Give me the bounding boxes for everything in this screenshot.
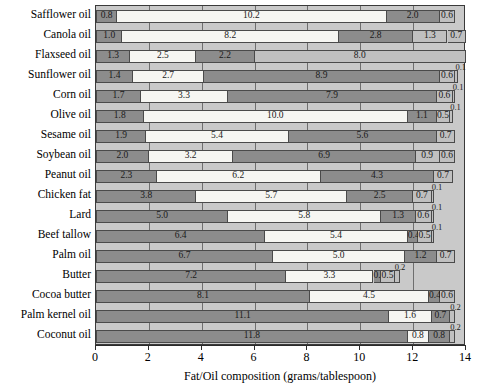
bar-segment: 8.2 [122, 30, 339, 43]
bar-segment: 3.3 [141, 90, 228, 103]
bar-segment: 2.5 [130, 50, 196, 63]
bar-segment: 0.5 [437, 110, 450, 123]
bar-segment: 1.3 [96, 50, 130, 63]
bar-segment: 2.0 [387, 10, 440, 23]
bar-segment: 0.9 [416, 150, 440, 163]
bar-segment-value: 2.8 [339, 31, 412, 41]
bar-segment-value: 4.3 [321, 171, 434, 181]
bar-segment-value: 6.2 [157, 171, 320, 181]
bar-segment-value: 5.8 [228, 211, 380, 221]
bar-segment-value: 2.5 [347, 191, 412, 201]
bar-segment: 0.7 [437, 130, 456, 143]
bar-segment-value: 2.5 [130, 51, 195, 61]
category-label: Lard [0, 209, 91, 221]
bar-segment: 3.8 [96, 190, 196, 203]
bar-segment: 1.6 [389, 310, 431, 323]
bar-segment: 11.8 [96, 330, 408, 343]
bar-segment-value: 0.7 [448, 31, 466, 41]
bar-segment-value: 11.1 [97, 311, 388, 321]
category-label: Peanut oil [0, 169, 91, 181]
category-axis-labels: Safflower oilCanola oilFlaxseed oilSunfl… [0, 5, 91, 345]
category-label: Cocoa butter [0, 289, 91, 301]
category-label: Palm kernel oil [0, 309, 91, 321]
bar-segment: 1.3 [413, 30, 447, 43]
bar-segment-value: 0.5 [437, 111, 449, 121]
bar-segment-value: 1.2 [405, 251, 436, 261]
bar-segment-value: 0.4 [429, 291, 439, 301]
category-label: Olive oil [0, 109, 91, 121]
bar-segment: 0.2 [395, 270, 400, 283]
bar-segment-value: 8.9 [204, 71, 438, 81]
bar-segment: 0.6 [440, 10, 456, 23]
bar-segment-value: 2.7 [133, 71, 203, 81]
bar-segment: 7.9 [228, 90, 437, 103]
bar-segment: 0.2 [450, 330, 455, 343]
bar-segment-value: 2.3 [97, 171, 156, 181]
bar-segment: 0.1 [450, 110, 453, 123]
x-tick-label: 14 [450, 351, 477, 363]
bar-segment-value: 4.5 [310, 291, 428, 301]
bar-segment-value: 7.2 [97, 271, 285, 281]
x-axis-line [95, 345, 465, 346]
bar-segment-value: 0.8 [97, 11, 116, 21]
bar-segment-value: 0.6 [437, 91, 452, 101]
bars-layer: 0.810.22.00.61.08.22.81.30.71.32.52.28.0… [96, 6, 464, 344]
category-label: Palm oil [0, 249, 91, 261]
bar-segment-value: 5.0 [97, 211, 227, 221]
bar-segment-value: 5.4 [265, 231, 407, 241]
bar-segment-value: 0.7 [434, 171, 452, 181]
bar-segment-value: 0.2 [450, 323, 454, 332]
category-label: Beef tallow [0, 229, 91, 241]
bar-segment-value: 6.4 [97, 231, 264, 241]
bar-segment: 1.2 [405, 250, 437, 263]
bar-segment: 0.6 [416, 210, 432, 223]
bar-segment-value: 0.7 [432, 311, 450, 321]
bar-segment-value: 5.0 [273, 251, 404, 261]
bar-segment: 10.0 [144, 110, 408, 123]
bar-segment-value: 0.3 [374, 271, 381, 281]
bar-segment: 5.0 [273, 250, 405, 263]
bar-segment: 5.4 [265, 230, 408, 243]
bar-segment: 0.4 [429, 290, 440, 303]
bar-segment: 0.4 [408, 230, 419, 243]
bar-segment: 0.6 [440, 70, 456, 83]
bar-segment: 2.3 [96, 170, 157, 183]
bar-segment-value: 1.6 [389, 311, 430, 321]
bar-segment-value: 5.7 [196, 191, 346, 201]
bar-segment-value: 8.0 [255, 51, 465, 61]
bar-segment-value: 1.1 [408, 111, 436, 121]
bar-segment: 1.8 [96, 110, 144, 123]
bar-segment: 2.8 [339, 30, 413, 43]
category-label: Flaxseed oil [0, 49, 91, 61]
bar-segment: 1.0 [96, 30, 122, 43]
bar-segment-value: 0.8 [429, 331, 449, 341]
bar-segment-value: 0.6 [440, 151, 455, 161]
bar-segment-value: 0.4 [408, 231, 418, 241]
x-tick-label: 0 [80, 351, 110, 363]
plot-area: 0.810.22.00.61.08.22.81.30.71.32.52.28.0… [95, 5, 465, 345]
x-tick-label: 6 [239, 351, 269, 363]
bar-segment: 0.1 [432, 190, 435, 203]
bar-segment: 0.8 [96, 10, 117, 23]
bar-segment-value: 1.9 [97, 131, 145, 141]
category-label: Soybean oil [0, 149, 91, 161]
bar-segment-value: 8.1 [97, 291, 309, 301]
bar-segment: 0.8 [429, 330, 450, 343]
bar-segment: 6.9 [233, 150, 415, 163]
x-tick-label: 4 [186, 351, 216, 363]
bar-segment: 5.8 [228, 210, 381, 223]
bar-segment-value: 2.0 [387, 11, 439, 21]
bar-segment-value: 1.3 [381, 211, 414, 221]
bar-segment: 0.6 [440, 150, 456, 163]
x-tick-label: 8 [291, 351, 321, 363]
bar-segment: 2.5 [347, 190, 413, 203]
bar-segment: 2.0 [96, 150, 149, 163]
bar-segment-value: 8.2 [122, 31, 338, 41]
bar-segment: 0.1 [432, 230, 435, 243]
bar-segment: 8.0 [255, 50, 466, 63]
bar-segment: 5.0 [96, 210, 228, 223]
bar-segment-value: 1.3 [413, 31, 446, 41]
bar-segment-value: 3.3 [286, 271, 372, 281]
bar-segment-value: 0.1 [432, 223, 434, 232]
bar-segment: 0.1 [432, 210, 435, 223]
